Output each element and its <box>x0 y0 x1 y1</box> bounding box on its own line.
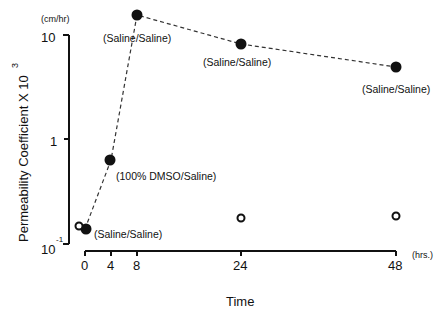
x-tick-label-8: 8 <box>133 258 140 273</box>
annotation-t48: (Saline/Saline) <box>362 83 430 95</box>
y-tick-label-0.1: 10 <box>41 242 55 257</box>
data-point-open-t24 <box>238 215 245 222</box>
y-tick-label-0.1-exponent: -1 <box>56 235 64 244</box>
chart: 10 1 10 -1 (cm/hr) Permeability Coeffici… <box>0 0 443 320</box>
y-tick-label-1: 1 <box>50 134 57 149</box>
data-point-filled-t4 <box>105 155 116 166</box>
data-point-open-t48 <box>393 213 400 220</box>
annotation-t24: (Saline/Saline) <box>203 56 271 68</box>
y-unit-label: (cm/hr) <box>41 14 70 24</box>
data-point-filled-t8 <box>132 10 143 21</box>
x-tick-label-4: 4 <box>107 258 114 273</box>
annotation-t0: (Saline/Saline) <box>94 228 162 240</box>
data-point-filled-t24 <box>236 39 247 50</box>
annotation-t4: (100% DMSO/Saline) <box>116 170 216 182</box>
annotation-t8: (Saline/Saline) <box>103 32 171 44</box>
y-axis-title-exponent: 3 <box>10 63 20 68</box>
x-unit-label: (hrs.) <box>412 250 433 260</box>
x-tick-label-24: 24 <box>233 258 247 273</box>
x-tick-label-48: 48 <box>388 258 402 273</box>
x-tick-label-0: 0 <box>81 258 88 273</box>
y-tick-label-10: 10 <box>41 30 55 45</box>
data-point-open-t0 <box>76 223 83 230</box>
y-axis-title: Permeability Coefficient X 10 <box>16 75 31 242</box>
data-point-filled-t48 <box>391 62 402 73</box>
x-axis-title: Time <box>226 294 254 309</box>
